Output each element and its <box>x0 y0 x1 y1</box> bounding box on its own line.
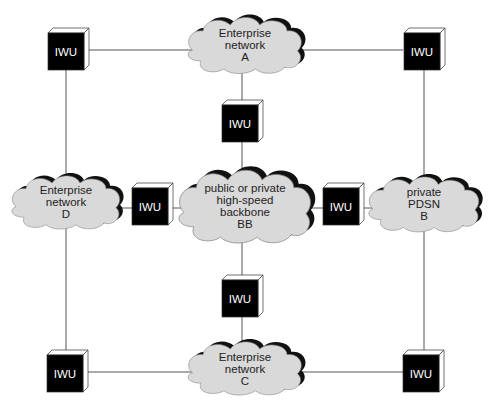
iwu-top-right-label: IWU <box>404 33 440 70</box>
iwu-left-mid-label: IWU <box>132 188 168 225</box>
iwu-bottom-right-label: IWU <box>403 355 439 392</box>
cloud-b <box>369 174 483 232</box>
iwu-right-mid-label: IWU <box>323 188 359 225</box>
cloud-bb <box>179 166 315 243</box>
iwu-center-top-label: IWU <box>222 105 258 142</box>
cloud-c <box>188 339 305 395</box>
iwu-top-left-label: IWU <box>48 33 84 70</box>
iwu-bottom-left-label: IWU <box>47 355 83 392</box>
cloud-a <box>188 15 305 74</box>
cloud-d <box>12 173 124 229</box>
iwu-center-bottom-label: IWU <box>222 280 258 317</box>
